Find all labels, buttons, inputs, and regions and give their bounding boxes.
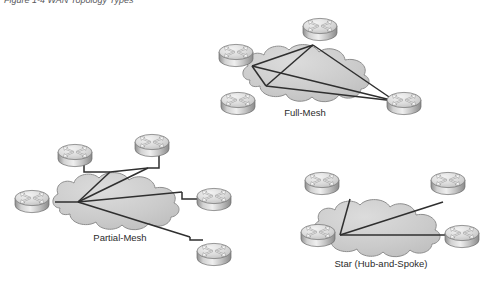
router-star-top-right[interactable] [431,172,465,194]
label-partial-mesh: Partial-Mesh [93,232,146,243]
router-full-mesh-left[interactable] [219,44,253,66]
figure-canvas: Figure 1-4 WAN Topology Types [0,0,489,282]
router-full-mesh-bottom-left[interactable] [221,92,255,114]
diagram-partial-mesh: Partial-Mesh [15,134,231,265]
wan-cloud-partial-mesh [53,173,179,230]
router-star-hub[interactable] [301,224,335,246]
router-partial-mesh-left[interactable] [15,190,49,212]
router-partial-mesh-bottom-right[interactable] [197,243,231,265]
link-elbow [190,237,203,240]
diagram-full-mesh: Full-Mesh [219,18,421,118]
label-full-mesh: Full-Mesh [284,107,326,118]
router-partial-mesh-top-left[interactable] [58,144,92,166]
router-full-mesh-top[interactable] [303,18,337,40]
topology-diagram: Full-Mesh Partial-Mesh [0,0,489,282]
label-star: Star (Hub-and-Spoke) [335,258,428,269]
router-star-top-left[interactable] [305,172,339,194]
router-star-right[interactable] [445,225,479,247]
wan-cloud-full-mesh [243,45,369,102]
router-partial-mesh-top-right[interactable] [135,134,169,156]
router-full-mesh-bottom-right[interactable] [387,92,421,114]
diagram-star: Star (Hub-and-Spoke) [301,172,479,269]
router-partial-mesh-right[interactable] [197,188,231,210]
